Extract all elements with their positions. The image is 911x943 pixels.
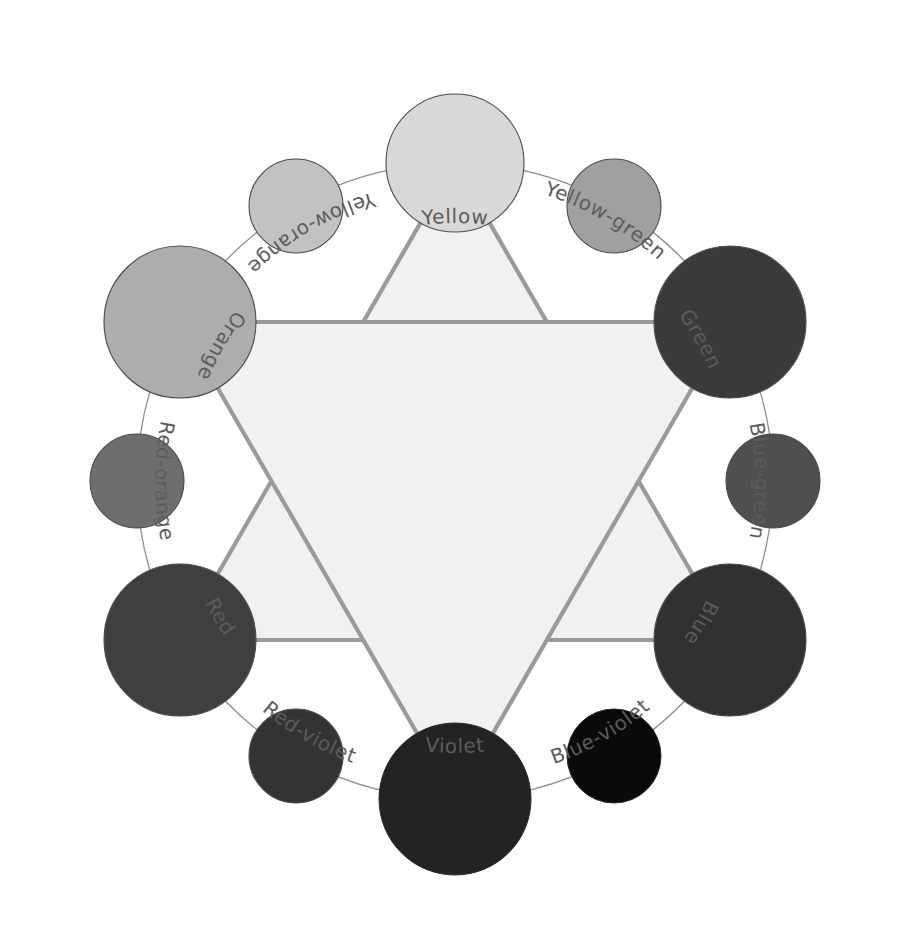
ring-arc-segment — [140, 392, 149, 434]
hue-label-text: Yellow — [419, 204, 489, 230]
color-wheel-figure: YellowYellow-greenGreenBlue-greenBlueBlu… — [0, 0, 911, 943]
hue-label-text: Violet — [424, 732, 485, 758]
ring-arc-segment — [338, 171, 386, 186]
ring-arc-segment — [531, 777, 572, 790]
ring-arc-segment — [140, 528, 149, 570]
color-wheel-canvas: YellowYellow-greenGreenBlue-greenBlueBlu… — [0, 0, 911, 943]
ring-arc-segment — [338, 777, 379, 790]
ring-arc-segment — [226, 701, 257, 730]
hue-label-violet: Violet — [424, 732, 485, 758]
ring-arc-segment — [653, 701, 684, 730]
hue-swatch-green[interactable]: Green — [654, 246, 806, 398]
hue-swatch-red[interactable]: Red — [104, 564, 256, 716]
hue-swatch-blue[interactable]: Blue — [654, 564, 806, 716]
hue-label-yellow: Yellow — [419, 204, 489, 230]
